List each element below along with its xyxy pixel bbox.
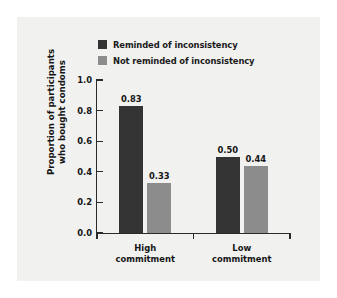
y-axis-tick-label-text: 0.0	[70, 228, 92, 238]
legend-swatch-not-reminded	[98, 56, 107, 65]
chart-legend: Reminded of inconsistency Not reminded o…	[98, 38, 298, 70]
legend-label-reminded: Reminded of inconsistency	[113, 40, 238, 50]
y-axis-tick-label: 0.4	[70, 167, 92, 177]
y-axis-tick-label-text: 0.8	[70, 106, 92, 116]
x-axis-category-label: Low commitment	[182, 243, 302, 265]
y-axis-tick-label-text: 0.4	[70, 167, 92, 177]
bar-value-label: 0.50	[213, 145, 243, 155]
bar-value-label: 0.83	[116, 94, 146, 104]
y-axis-tick	[97, 232, 103, 233]
y-axis-tick-label: 0.2	[70, 197, 92, 207]
y-axis-tick	[97, 202, 103, 203]
bar-value-label: 0.33	[144, 171, 174, 181]
y-axis-tick-label: 1.0	[70, 75, 92, 85]
y-axis-tick-label-text: 1.0	[70, 75, 92, 85]
x-axis-tick	[289, 233, 290, 239]
y-axis-tick-label-text: 0.2	[70, 197, 92, 207]
bar	[216, 157, 240, 234]
y-axis-tick	[97, 79, 103, 80]
y-axis-title: Proportion of participants who bought co…	[42, 37, 72, 187]
bar-value-label: 0.44	[241, 154, 271, 164]
legend-swatch-reminded	[98, 40, 107, 49]
y-axis-line	[96, 79, 97, 234]
y-axis-tick-label-text: 0.6	[70, 136, 92, 146]
y-axis-tick	[97, 171, 103, 172]
bar	[244, 166, 268, 233]
legend-item-not-reminded: Not reminded of inconsistency	[98, 54, 298, 67]
legend-label-not-reminded: Not reminded of inconsistency	[113, 56, 254, 66]
y-axis-tick-label: 0.6	[70, 136, 92, 146]
y-axis-tick-label: 0.8	[70, 106, 92, 116]
chart-figure: Reminded of inconsistency Not reminded o…	[0, 0, 337, 298]
y-axis-tick	[97, 141, 103, 142]
x-axis-tick	[193, 233, 194, 239]
y-axis-tick	[97, 110, 103, 111]
bar	[119, 106, 143, 233]
bar	[147, 183, 171, 233]
x-axis-tick	[96, 233, 97, 239]
y-axis-tick-label: 0.0	[70, 228, 92, 238]
legend-item-reminded: Reminded of inconsistency	[98, 38, 298, 51]
